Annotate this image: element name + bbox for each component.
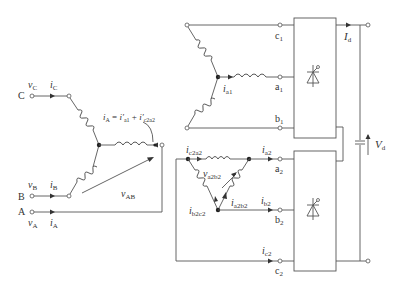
inductor-icon	[115, 142, 147, 145]
upper-thyristor-bridge	[294, 18, 336, 138]
terminal-label-b2: b2	[275, 214, 284, 227]
terminal-label-b1: b1	[275, 113, 284, 126]
current-label-ib2c2: ib2c2	[189, 205, 206, 218]
current-label-ia2b2: ia2b2	[231, 197, 248, 210]
voltage-label-va2b2: va2b2	[203, 168, 222, 181]
inductor-icon	[78, 110, 94, 130]
primary-winding	[30, 94, 164, 215]
terminal-label-c1: c1	[275, 30, 283, 43]
terminal-label-c2: c2	[275, 265, 283, 278]
terminal-label-A: A	[18, 206, 26, 217]
voltage-label-vC: vC	[28, 79, 37, 92]
terminal-label-C: C	[18, 90, 25, 101]
voltage-label-vA: vA	[28, 217, 38, 230]
thyristor-bridge-icon	[307, 65, 320, 87]
current-label-iC: iC	[50, 79, 58, 92]
circuit-diagram: C vC iC B vB iB A vA iA vAB iA = i′a1 + …	[0, 0, 404, 285]
voltage-label-vAB: vAB	[121, 188, 136, 201]
lower-thyristor-bridge	[294, 151, 336, 271]
current-label-ib2: ib2	[261, 195, 271, 208]
current-label-ic2: ic2	[262, 245, 272, 258]
voltage-label-vB: vB	[28, 179, 37, 192]
current-label-ia1: ia1	[223, 83, 233, 96]
current-label-iB: iB	[50, 179, 58, 192]
terminal-label-B: B	[18, 191, 25, 202]
thyristor-bridge-icon	[307, 198, 320, 220]
capacitor-icon	[355, 141, 365, 144]
current-label-iA: iA	[50, 217, 58, 230]
dc-voltage-label: Vd	[375, 138, 386, 152]
current-label-ic2a2: ic2a2	[186, 144, 202, 157]
terminal-label-a2: a2	[275, 163, 283, 176]
current-label-ia2: ia2	[262, 144, 272, 157]
current-equation: iA = i′a1 + i′c2a2	[103, 112, 155, 123]
terminal-label-a1: a1	[275, 81, 283, 94]
dc-current-label: Id	[343, 30, 352, 44]
dc-output	[336, 23, 371, 264]
